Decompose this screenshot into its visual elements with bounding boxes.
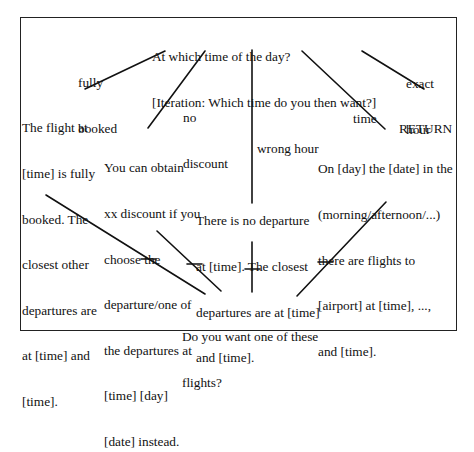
label-wrong-hour: wrong hour [257,111,319,172]
confirm-question-line1: Do you want one of these [182,329,318,344]
response-line: choose the [104,252,200,267]
confirm-question: Do you want one of these flights? [182,299,318,405]
response-line: there are flights to [318,253,453,268]
response-line: [time] is fully [22,166,97,181]
response-line: at [time]. The closest [196,259,320,274]
label-line: time [353,111,377,126]
response-line: and [time]. [318,344,453,359]
response-line: On [day] the [date] in the [318,161,453,176]
response-line: There is no departure [196,213,320,228]
label-line: wrong hour [257,141,319,156]
response-return: RETURN [399,91,452,152]
response-line: closest other [22,257,97,272]
response-line: The flight at [22,120,97,135]
response-line: booked. The [22,212,97,227]
response-line: departures are [22,303,97,318]
response-time: On [day] the [date] in the (morning/afte… [318,131,453,374]
response-line: xx discount if you [104,206,200,221]
label-line: fully [78,75,117,90]
label-line: exact [406,76,434,91]
response-line: [date] instead. [104,434,200,449]
response-line: RETURN [399,121,452,136]
root-question-line1: At which time of the day? [152,49,376,64]
response-line: [airport] at [time], ..., [318,298,453,313]
response-line: at [time] and [22,348,97,363]
response-line: [time]. [22,394,97,409]
confirm-question-line2: flights? [182,375,318,390]
response-line: (morning/afternoon/...) [318,207,453,222]
label-line: no [183,110,228,125]
response-fully-booked: The flight at [time] is fully booked. Th… [22,90,97,424]
response-line: You can obtain [104,160,200,175]
